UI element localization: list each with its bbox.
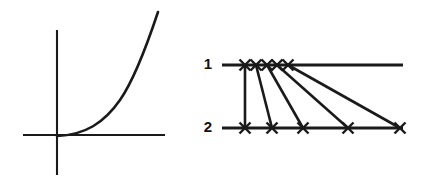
connector-line — [288, 65, 400, 128]
exponential-curve-path — [57, 12, 158, 136]
exponential-curve-plot — [23, 12, 165, 175]
rail-label-bottom: 2 — [204, 118, 212, 135]
connector-line — [256, 65, 272, 128]
two-line-mapping-diagram: 1 2 — [204, 55, 406, 135]
connector-line — [277, 65, 348, 128]
figure-root: 1 2 — [0, 0, 425, 178]
rail-label-top: 1 — [204, 55, 212, 72]
connector-line — [267, 65, 303, 128]
figure-canvas: 1 2 — [0, 0, 425, 178]
connector-group — [245, 65, 400, 128]
